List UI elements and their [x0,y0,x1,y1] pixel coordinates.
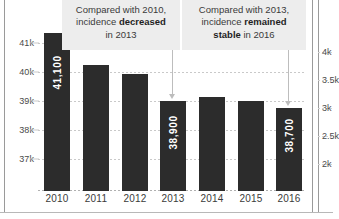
x-tick-2013: 2013 [154,193,192,204]
callout-1-leader-line [172,50,173,95]
callout-2-leader-line [288,50,289,102]
bar-2015[interactable] [238,101,264,191]
bar-2016[interactable]: 38,700 [276,108,302,191]
figure-bottom-rule [0,212,333,213]
callout-1-line2-bold: decreased [119,16,166,27]
bar-2014[interactable] [199,97,225,191]
y-tick-label-37k: 37k [0,154,34,164]
bar-value-2013: 38,900 [168,115,179,149]
adjacent-y-tick-4k: 4k [322,47,332,57]
adjacent-y-tick-2_5k: 2.5k [322,131,339,141]
bar-2011[interactable] [83,65,109,191]
bar-value-2010: 41,100 [52,55,63,89]
bar-2010[interactable]: 41,100 [44,33,70,191]
adjacent-y-tick-3k: 3k [322,103,332,113]
x-tick-2016: 2016 [270,193,308,204]
callout-stable-2016: Compared with 2013, incidence remained s… [182,0,306,50]
callout-2-line2-prefix: incidence [201,16,244,27]
y-tick-label-40k: 40k [0,67,34,77]
callout-divider [180,0,182,50]
callout-2-arrow-icon [285,101,291,106]
y-tick-label-41k: 41k [0,38,34,48]
y-tick-label-38k: 38k [0,125,34,135]
y-tick-stub-40k [30,72,39,73]
y-tick-stub-37k [30,159,39,160]
callout-1-line1: Compared with 2010, [76,4,166,15]
callout-1-line3: in 2013 [105,29,136,40]
callout-decreased-2013: Compared with 2010, incidence decreased … [62,0,180,50]
callout-2-line3-suffix: in 2016 [241,29,275,40]
x-tick-2010: 2010 [38,193,76,204]
callout-2-line2-bold: remained [244,16,286,27]
adjacent-y-tick-3_5k: 3.5k [322,75,339,85]
x-tick-2011: 2011 [77,193,115,204]
adjacent-y-tick-2k: 2k [322,159,332,169]
bar-2012[interactable] [122,74,148,191]
x-tick-2014: 2014 [193,193,231,204]
callout-2-line1: Compared with 2013, [199,4,289,15]
y-tick-label-39k: 39k [0,96,34,106]
y-tick-stub-41k [30,43,39,44]
x-tick-2015: 2015 [232,193,270,204]
y-tick-stub-39k [30,101,39,102]
callout-2-line3-bold: stable [213,29,240,40]
x-tick-2012: 2012 [116,193,154,204]
bar-2013[interactable]: 38,900 [160,101,186,191]
callout-1-line2-prefix: incidence [76,16,119,27]
y-tick-stub-38k [30,130,39,131]
bar-value-2016: 38,700 [284,118,295,152]
callout-1-arrow-icon [169,94,175,99]
